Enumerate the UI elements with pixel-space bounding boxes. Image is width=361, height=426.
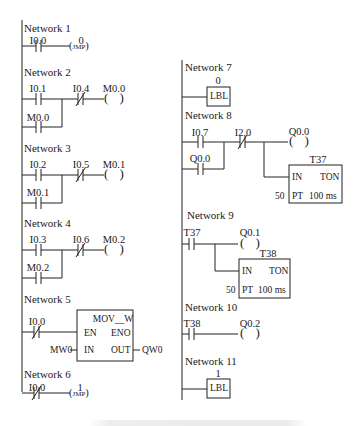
contact-label: T38 xyxy=(184,318,201,329)
coil-icon: ( ) xyxy=(240,327,264,338)
out-value: QW0 xyxy=(142,345,163,356)
eno-pin: ENO xyxy=(111,328,131,339)
out-pin: OUT xyxy=(111,345,131,356)
network-1-label: Network 1 xyxy=(24,23,71,34)
nc-contact-label: I0.5 xyxy=(73,159,90,170)
contact-label: I0.7 xyxy=(192,127,209,138)
timer-name: T37 xyxy=(310,154,327,165)
contact-label: M0.2 xyxy=(27,262,49,273)
timer-type: TON xyxy=(269,266,288,277)
pt-pin: PT xyxy=(242,285,253,296)
network-7-label: Network 7 xyxy=(185,62,232,73)
nc-contact-label: I2.0 xyxy=(235,127,252,138)
coil-icon: ( ) xyxy=(104,168,128,179)
figure-caption-cropped xyxy=(88,420,308,426)
contact-label: I0.3 xyxy=(30,234,47,245)
nc-contact-label: I0.0 xyxy=(29,382,46,393)
contact-label: M0.1 xyxy=(27,187,49,198)
ladder-diagram: Network 1 I0.0 0 (JMP) Network 2 I0.1 M0… xyxy=(0,0,361,426)
jmp-coil: (JMP) xyxy=(69,40,89,53)
en-pin: EN xyxy=(84,328,97,339)
contact-label: I0.0 xyxy=(30,35,47,46)
coil-icon: ( ) xyxy=(104,243,128,254)
lbl-box-text: LBL xyxy=(210,383,228,394)
jmp-coil-text: JMP xyxy=(73,43,86,51)
time-base: 100 ms xyxy=(309,191,337,202)
network-5-label: Network 5 xyxy=(24,294,71,305)
lbl-number: 1 xyxy=(215,368,220,379)
network-8-label: Network 8 xyxy=(185,110,232,121)
pt-pin: PT xyxy=(292,191,303,202)
jmp-coil: (JMP) xyxy=(69,387,89,400)
contact-label: M0.0 xyxy=(27,112,49,123)
contact-label: T37 xyxy=(184,227,201,238)
timer-type: TON xyxy=(320,172,339,183)
nc-contact-label: I0.4 xyxy=(73,83,90,94)
network-10-label: Network 10 xyxy=(185,302,237,313)
coil-icon: ( ) xyxy=(104,92,128,103)
pt-value: 50 xyxy=(275,191,285,202)
timer-in-pin: IN xyxy=(242,266,252,277)
in-pin: IN xyxy=(84,345,94,356)
network-3-label: Network 3 xyxy=(24,143,71,154)
ladder-wiring xyxy=(0,0,361,426)
contact-label: I0.1 xyxy=(30,83,47,94)
network-11-label: Network 11 xyxy=(185,356,237,367)
mov-block-title: MOV__W xyxy=(93,314,134,325)
contact-label: Q0.0 xyxy=(190,153,211,164)
time-base: 100 ms xyxy=(258,285,286,296)
in-value: MW0 xyxy=(50,345,72,356)
coil-icon: ( ) xyxy=(289,135,313,146)
network-4-label: Network 4 xyxy=(24,218,71,229)
pt-value: 50 xyxy=(226,285,236,296)
network-2-label: Network 2 xyxy=(24,67,71,78)
network-6-label: Network 6 xyxy=(24,369,71,380)
coil-icon: ( ) xyxy=(240,237,264,248)
nc-contact-label: I0.6 xyxy=(73,234,90,245)
timer-name: T38 xyxy=(260,248,277,259)
lbl-number: 0 xyxy=(215,75,220,86)
nc-contact-label: I0.0 xyxy=(29,316,46,327)
jmp-coil-text: JMP xyxy=(73,390,86,398)
contact-label: I0.2 xyxy=(30,159,47,170)
network-9-label: Network 9 xyxy=(187,210,234,221)
lbl-box-text: LBL xyxy=(210,91,228,102)
timer-in-pin: IN xyxy=(292,172,302,183)
